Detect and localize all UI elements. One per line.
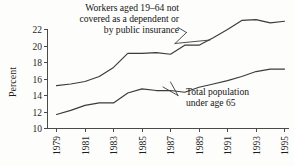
x-tick-label-1983: 1983 — [109, 136, 119, 155]
workers-annotation-line-2: covered as a dependent or — [79, 13, 179, 24]
y-tick-label-12: 12 — [33, 108, 43, 118]
workers-annotation-line-3: by public insurance — [104, 24, 179, 35]
x-tick-label-1993: 1993 — [252, 136, 262, 155]
y-tick-label-22: 22 — [33, 25, 43, 35]
y-tick-label-18: 18 — [33, 58, 43, 68]
total-population-annotation-line-2: under age 65 — [186, 97, 236, 108]
workers-annotation-leader — [175, 28, 210, 44]
line-chart: Percent 22 20 18 16 14 12 10 1979 1981 1 — [0, 0, 294, 166]
series-line-total-population — [57, 69, 285, 114]
x-tick-label-1981: 1981 — [81, 136, 91, 155]
x-tick-label-1985: 1985 — [138, 136, 148, 155]
x-tick-label-1987: 1987 — [166, 136, 176, 155]
y-tick-label-16: 16 — [33, 75, 43, 85]
x-tick-label-1989: 1989 — [195, 136, 205, 155]
chart-figure: Percent 22 20 18 16 14 12 10 1979 1981 1 — [0, 0, 294, 166]
total-population-annotation-leader — [163, 82, 178, 96]
y-tick-label-20: 20 — [33, 42, 43, 52]
y-tick-label-14: 14 — [33, 91, 43, 101]
x-tick-label-1979: 1979 — [52, 136, 62, 155]
y-tick-label-10: 10 — [33, 124, 43, 134]
total-population-annotation-line-1: Total population — [186, 86, 249, 97]
x-tick-label-1995: 1995 — [280, 136, 290, 155]
y-axis-title: Percent — [7, 67, 18, 97]
x-tick-label-1991: 1991 — [223, 136, 233, 155]
workers-annotation-line-1: Workers aged 19–64 not — [85, 2, 179, 13]
